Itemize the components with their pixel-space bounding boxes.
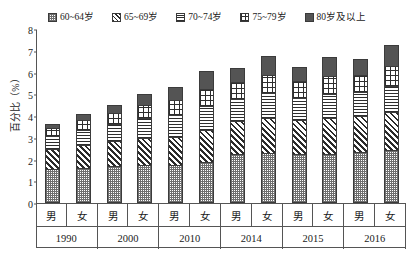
x-axis-sex-row: 男女男女男女男女男女男女 bbox=[36, 204, 406, 226]
y-axis-title: 百分比（%） bbox=[7, 63, 22, 143]
bar-segment-80岁及以上 bbox=[230, 68, 245, 82]
bar-segment-65~69岁 bbox=[353, 116, 368, 152]
legend-65-69-swatch-icon bbox=[112, 13, 121, 22]
x-label-sex-2014-male: 男 bbox=[221, 204, 252, 226]
bar-2000-女[interactable] bbox=[137, 94, 152, 203]
bar-segment-60~64岁 bbox=[137, 165, 152, 203]
x-label-year-2015: 2015 bbox=[283, 227, 345, 249]
bar-segment-65~69岁 bbox=[261, 118, 276, 153]
legend-80-plus-label: 80岁及以上 bbox=[317, 12, 367, 22]
legend-60-64-swatch-icon bbox=[48, 13, 57, 22]
x-label-sex-2000-male: 男 bbox=[98, 204, 129, 226]
bar-segment-65~69岁 bbox=[384, 112, 399, 150]
x-label-sex-2015-female: 女 bbox=[314, 204, 345, 226]
x-label-sex-2014-female: 女 bbox=[252, 204, 283, 226]
bar-segment-80岁及以上 bbox=[137, 94, 152, 105]
bar-segment-65~69岁 bbox=[107, 141, 122, 166]
bar-segment-75~79岁 bbox=[107, 113, 122, 124]
bar-segment-60~64岁 bbox=[292, 154, 307, 203]
chart-legend: 60~64岁65~69岁70~74岁75~79岁80岁及以上 bbox=[0, 8, 414, 26]
legend-70-74-swatch-icon bbox=[176, 13, 185, 22]
bar-segment-80岁及以上 bbox=[199, 71, 214, 88]
x-label-sex-2016-female: 女 bbox=[375, 204, 406, 226]
bar-series-container bbox=[37, 30, 406, 203]
x-label-year-2000: 2000 bbox=[98, 227, 160, 249]
x-label-sex-2015-male: 男 bbox=[283, 204, 314, 226]
bar-segment-65~69岁 bbox=[292, 120, 307, 154]
bar-segment-60~64岁 bbox=[384, 150, 399, 203]
x-label-year-2016: 2016 bbox=[344, 227, 406, 249]
legend-75-79-label: 75~79岁 bbox=[252, 12, 286, 22]
bar-2016-男[interactable] bbox=[353, 59, 368, 203]
x-label-year-2010: 2010 bbox=[159, 227, 221, 249]
bar-segment-65~69岁 bbox=[199, 130, 214, 162]
bar-segment-70~74岁 bbox=[45, 136, 60, 149]
bar-segment-70~74岁 bbox=[76, 130, 91, 145]
bar-segment-65~69岁 bbox=[168, 137, 183, 165]
bar-segment-65~69岁 bbox=[76, 145, 91, 168]
bar-2000-男[interactable] bbox=[107, 105, 122, 203]
bar-segment-75~79岁 bbox=[230, 82, 245, 98]
legend-75-79[interactable]: 75~79岁 bbox=[240, 12, 286, 22]
legend-80-plus-swatch-icon bbox=[305, 13, 314, 22]
bar-segment-75~79岁 bbox=[261, 75, 276, 93]
bar-segment-75~79岁 bbox=[292, 81, 307, 97]
bar-segment-60~64岁 bbox=[353, 152, 368, 203]
x-label-year-1990: 1990 bbox=[36, 227, 98, 249]
bar-segment-80岁及以上 bbox=[384, 45, 399, 66]
bar-segment-80岁及以上 bbox=[107, 105, 122, 113]
bar-segment-80岁及以上 bbox=[168, 87, 183, 100]
legend-70-74-label: 70~74岁 bbox=[188, 12, 222, 22]
x-label-sex-1990-male: 男 bbox=[36, 204, 67, 226]
bar-segment-70~74岁 bbox=[137, 118, 152, 138]
x-axis-year-row: 199020002010201420152016 bbox=[36, 226, 406, 249]
bar-segment-70~74岁 bbox=[230, 99, 245, 122]
bar-segment-75~79岁 bbox=[76, 120, 91, 130]
bar-segment-60~64岁 bbox=[199, 162, 214, 203]
bar-segment-65~69岁 bbox=[230, 121, 245, 154]
bar-1990-女[interactable] bbox=[76, 114, 91, 203]
legend-65-69[interactable]: 65~69岁 bbox=[112, 12, 158, 22]
bar-2015-女[interactable] bbox=[322, 57, 337, 203]
bar-segment-70~74岁 bbox=[322, 94, 337, 118]
bar-2010-男[interactable] bbox=[168, 87, 183, 203]
bar-2014-女[interactable] bbox=[261, 56, 276, 203]
legend-60-64[interactable]: 60~64岁 bbox=[48, 12, 94, 22]
bar-2015-男[interactable] bbox=[292, 67, 307, 203]
x-label-sex-2000-female: 女 bbox=[129, 204, 160, 226]
bar-segment-65~69岁 bbox=[137, 138, 152, 165]
bar-segment-80岁及以上 bbox=[261, 56, 276, 74]
bar-segment-60~64岁 bbox=[230, 154, 245, 203]
bar-segment-70~74岁 bbox=[384, 86, 399, 112]
bar-segment-70~74岁 bbox=[107, 124, 122, 141]
x-label-year-2014: 2014 bbox=[221, 227, 283, 249]
bar-segment-70~74岁 bbox=[353, 92, 368, 116]
bar-segment-60~64岁 bbox=[107, 166, 122, 203]
bar-segment-75~79岁 bbox=[353, 75, 368, 92]
x-label-sex-2010-male: 男 bbox=[159, 204, 190, 226]
x-axis: 男女男女男女男女男女男女 199020002010201420152016 bbox=[36, 204, 406, 248]
legend-70-74[interactable]: 70~74岁 bbox=[176, 12, 222, 22]
x-label-sex-2016-male: 男 bbox=[344, 204, 375, 226]
legend-75-79-swatch-icon bbox=[240, 13, 249, 22]
legend-65-69-label: 65~69岁 bbox=[124, 12, 158, 22]
legend-80-plus[interactable]: 80岁及以上 bbox=[305, 12, 367, 22]
bar-segment-75~79岁 bbox=[322, 76, 337, 94]
bar-segment-80岁及以上 bbox=[322, 57, 337, 75]
bar-segment-60~64岁 bbox=[45, 169, 60, 203]
bar-2016-女[interactable] bbox=[384, 45, 399, 203]
legend-60-64-label: 60~64岁 bbox=[60, 12, 94, 22]
bar-2014-男[interactable] bbox=[230, 68, 245, 203]
bar-segment-60~64岁 bbox=[76, 168, 91, 203]
plot-area: 012345678 bbox=[36, 30, 406, 204]
bar-1990-男[interactable] bbox=[45, 124, 60, 203]
bar-segment-75~79岁 bbox=[45, 128, 60, 136]
bar-segment-80岁及以上 bbox=[292, 67, 307, 81]
bar-segment-70~74岁 bbox=[261, 93, 276, 118]
bar-segment-75~79岁 bbox=[168, 100, 183, 115]
x-label-sex-1990-female: 女 bbox=[67, 204, 98, 226]
bar-segment-70~74岁 bbox=[199, 106, 214, 130]
bar-segment-80岁及以上 bbox=[353, 59, 368, 74]
x-label-sex-2010-female: 女 bbox=[190, 204, 221, 226]
bar-2010-女[interactable] bbox=[199, 71, 214, 203]
